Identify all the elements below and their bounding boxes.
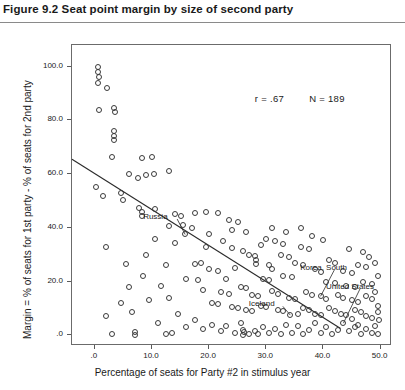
data-point <box>295 311 301 317</box>
data-point <box>369 315 375 321</box>
data-point <box>306 307 312 313</box>
point-label-united-states: United States <box>326 282 374 291</box>
data-point <box>198 260 204 266</box>
data-point <box>118 300 124 306</box>
data-point <box>278 252 284 258</box>
data-point <box>292 296 298 302</box>
data-point <box>335 327 341 333</box>
y-tick-mark <box>67 281 71 282</box>
x-tick-label: 30.0 <box>245 351 285 360</box>
data-point <box>215 210 221 216</box>
data-point <box>309 233 315 239</box>
data-point <box>203 244 209 250</box>
point-label-iceland: Iceland <box>249 299 275 308</box>
data-point <box>120 197 126 203</box>
data-point <box>112 109 118 115</box>
x-tick-mark <box>208 345 209 349</box>
data-point <box>363 264 369 270</box>
x-tick-mark <box>265 345 266 349</box>
data-point <box>295 323 301 329</box>
data-point <box>135 175 141 181</box>
x-tick-label: 50.0 <box>360 351 400 360</box>
data-point <box>272 326 278 332</box>
stat-annotation: r = .67 <box>255 93 284 104</box>
data-point <box>95 80 101 86</box>
x-tick-mark <box>151 345 152 349</box>
data-point <box>318 312 324 318</box>
data-point <box>289 330 295 336</box>
data-point <box>355 322 361 328</box>
data-point <box>226 291 232 297</box>
x-tick-label: 20.0 <box>188 351 228 360</box>
y-tick-mark <box>67 334 71 335</box>
x-tick-label: 40.0 <box>302 351 342 360</box>
data-point <box>126 284 132 290</box>
data-point <box>109 154 115 160</box>
x-tick-mark <box>380 345 381 349</box>
data-point <box>215 268 221 274</box>
data-point <box>232 265 238 271</box>
y-axis-label: Margin = % of seats for 1st party - % of… <box>22 80 33 339</box>
data-point <box>96 107 102 113</box>
data-point <box>155 320 161 326</box>
point-label-korea-south: Korea, South <box>300 263 347 272</box>
data-point <box>189 225 195 231</box>
data-point <box>118 190 124 196</box>
data-point <box>358 331 364 337</box>
data-point <box>283 322 289 328</box>
data-point <box>272 238 278 244</box>
data-point <box>103 244 109 250</box>
figure-title: Figure 9.2 Seat point margin by size of … <box>3 3 293 15</box>
x-tick-mark <box>94 345 95 349</box>
data-point <box>375 303 381 309</box>
data-point <box>166 295 172 301</box>
data-point <box>200 326 206 332</box>
data-point <box>143 252 149 258</box>
data-point <box>192 261 198 267</box>
data-point <box>169 330 175 336</box>
x-tick-label: .0 <box>74 351 114 360</box>
data-point <box>178 213 184 219</box>
data-point <box>292 260 298 266</box>
data-point <box>218 328 224 334</box>
data-point <box>152 236 158 242</box>
data-point <box>263 236 269 242</box>
y-tick-mark <box>67 66 71 67</box>
data-point <box>312 311 318 317</box>
x-tick-label: 10.0 <box>131 351 171 360</box>
y-tick-mark <box>67 119 71 120</box>
data-point <box>229 245 235 251</box>
data-point <box>158 283 164 289</box>
data-point <box>278 331 284 337</box>
data-point <box>309 292 315 298</box>
figure-container: Figure 9.2 Seat point margin by size of … <box>0 0 405 390</box>
data-point <box>139 155 145 161</box>
title-divider <box>0 22 405 23</box>
data-point <box>203 209 209 215</box>
data-point <box>369 296 375 302</box>
plot-area: RussiaIcelandKorea, SouthUnited Statesr … <box>71 44 391 345</box>
data-point <box>195 277 201 283</box>
stat-annotation: N = 189 <box>309 93 345 104</box>
data-point <box>375 331 381 337</box>
data-point <box>149 154 155 160</box>
data-point <box>226 217 232 223</box>
data-point <box>258 242 264 248</box>
y-tick-label: 100.0 <box>23 61 63 70</box>
data-point <box>209 322 215 328</box>
data-point <box>192 210 198 216</box>
data-point <box>372 260 378 266</box>
y-tick-mark <box>67 173 71 174</box>
data-point <box>298 244 304 250</box>
data-point <box>306 327 312 333</box>
data-point <box>332 308 338 314</box>
data-point <box>238 320 244 326</box>
data-point <box>372 323 378 329</box>
data-point <box>241 329 247 335</box>
data-point <box>151 171 157 177</box>
y-tick-mark <box>67 227 71 228</box>
data-point <box>172 240 178 246</box>
point-label-russia: Russia <box>143 212 167 221</box>
data-point <box>298 225 304 231</box>
x-tick-mark <box>322 345 323 349</box>
